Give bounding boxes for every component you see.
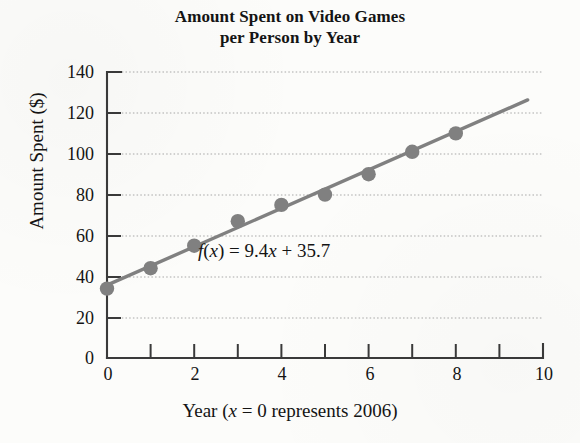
equation-variable-2: x <box>268 240 276 261</box>
data-point <box>231 214 245 228</box>
plot-area <box>0 0 580 443</box>
data-point <box>449 126 463 140</box>
x-tick-marks <box>151 344 500 358</box>
equation-annotation: f(x) = 9.4x + 35.7 <box>198 240 330 262</box>
equation-variable: x <box>210 240 218 261</box>
data-point <box>143 261 157 275</box>
data-point <box>361 167 375 181</box>
data-point <box>318 187 332 201</box>
equation-middle: ) = 9.4 <box>218 240 268 261</box>
data-points <box>100 126 463 296</box>
axis-lines <box>107 72 543 358</box>
y-axis-line <box>107 72 121 358</box>
equation-tail: + 35.7 <box>277 240 330 261</box>
data-point <box>405 145 419 159</box>
chart-figure: Amount Spent on Video Games per Person b… <box>0 0 580 443</box>
data-point <box>274 198 288 212</box>
data-point <box>100 281 114 295</box>
